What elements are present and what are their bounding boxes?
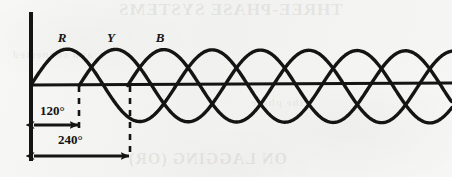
angle-label-240: 240° — [58, 132, 83, 147]
three-phase-waveform-diagram: R Y B 120° 240° — [0, 0, 452, 177]
phase-label-r: R — [57, 30, 67, 45]
phase-label-b: B — [155, 30, 165, 45]
figure-canvas: THREE-PHASE SYSTEMS and connected the ph… — [0, 0, 452, 177]
angle-label-120: 120° — [40, 103, 65, 118]
phase-label-y: Y — [107, 30, 116, 45]
horizontal-axis — [29, 83, 452, 85]
